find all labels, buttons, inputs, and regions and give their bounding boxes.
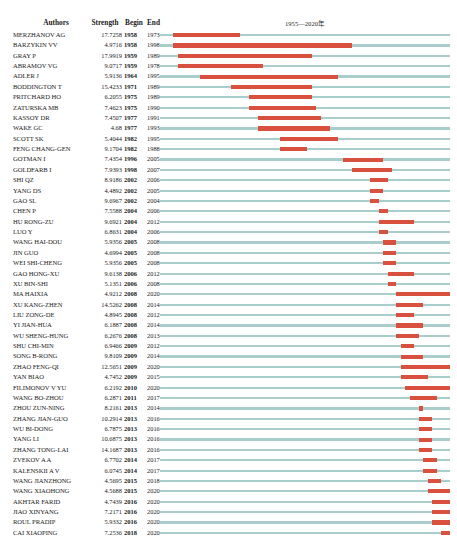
- burst-bar: [441, 531, 450, 535]
- cell-author: PRITCHARD HO: [13, 92, 89, 102]
- timeline-track: [160, 511, 450, 513]
- table-row: KALENSKII A V6.074520142017: [0, 466, 457, 476]
- cell-strength: 9.6921: [86, 217, 122, 227]
- cell-begin: 2016: [124, 517, 145, 527]
- timeline-track: [160, 438, 450, 440]
- cell-begin: 2002: [124, 175, 145, 185]
- cell-strength: 5.9356: [86, 237, 122, 247]
- table-row: WANG BO-ZHOU6.287120112017: [0, 393, 457, 403]
- cell-author: WANG XIAOHONG: [13, 486, 89, 496]
- burst-bar: [396, 323, 423, 327]
- timeline-track: [160, 532, 450, 534]
- table-header: Authors Strength Begin End 1955—2020年: [0, 18, 457, 30]
- cell-strength: 4.7452: [86, 372, 122, 382]
- timeline-track: [160, 190, 450, 192]
- burst-bar: [383, 240, 396, 244]
- cell-strength: 14.1687: [86, 445, 122, 455]
- burst-bar: [423, 469, 436, 473]
- burst-bar: [258, 126, 329, 130]
- cell-author: BARZYKIN VV: [13, 40, 89, 50]
- timeline-track: [160, 480, 450, 482]
- cell-begin: 2002: [124, 186, 145, 196]
- cell-begin: 2008: [124, 320, 145, 330]
- table-row: MERZHANOV AG17.725819581973: [0, 30, 457, 40]
- cell-strength: 14.5262: [86, 300, 122, 310]
- burst-bar: [419, 406, 423, 410]
- burst-bar: [178, 64, 263, 68]
- cell-begin: 2004: [124, 217, 145, 227]
- timeline-track: [160, 449, 450, 451]
- cell-begin: 2015: [124, 476, 145, 486]
- burst-bar: [370, 189, 383, 193]
- table-row: AKHTAR FARID4.743920162020: [0, 497, 457, 507]
- cell-strength: 8.9186: [86, 175, 122, 185]
- timeline-track: [160, 200, 450, 202]
- timeline-track: [160, 169, 450, 171]
- table-row: SONG B-RONG9.810920092014: [0, 351, 457, 361]
- burst-bar: [370, 199, 379, 203]
- timeline-track: [160, 262, 450, 264]
- cell-begin: 2015: [124, 486, 145, 496]
- timeline-track: [160, 283, 450, 285]
- timeline-track: [160, 501, 450, 503]
- cell-author: YAN BIAO: [13, 372, 89, 382]
- burst-bar: [410, 396, 437, 400]
- cell-strength: 9.6138: [86, 269, 122, 279]
- cell-strength: 5.9136: [86, 71, 122, 81]
- table-row: WANG XIAOHONG4.568820152020: [0, 486, 457, 496]
- cell-strength: 6.2871: [86, 393, 122, 403]
- table-row: MA HAIXIA4.921220082020: [0, 289, 457, 299]
- cell-begin: 2014: [124, 466, 145, 476]
- cell-author: ZHAO FENG-QI: [13, 362, 89, 372]
- table-row: CHEN P7.558820042006: [0, 206, 457, 216]
- cell-author: CAI XIAOPING: [13, 528, 89, 538]
- cell-author: ABRAMOV VG: [13, 61, 89, 71]
- cell-begin: 2013: [124, 414, 145, 424]
- timeline-track: [160, 252, 450, 254]
- burst-bar: [432, 520, 450, 524]
- cell-strength: 7.4354: [86, 154, 122, 164]
- burst-bar: [388, 282, 397, 286]
- cell-author: WEI SHI-CHENG: [13, 258, 89, 268]
- table-row: XU KANG-ZHEN14.526220082014: [0, 300, 457, 310]
- cell-author: ZHOU ZUN-NING: [13, 403, 89, 413]
- cell-strength: 4.9716: [86, 40, 122, 50]
- burst-bar: [419, 427, 432, 431]
- cell-strength: 4.5695: [86, 476, 122, 486]
- cell-author: WANG JIANZHONG: [13, 476, 89, 486]
- burst-bar: [405, 386, 450, 390]
- table-row: YAN BIAO4.745220092015: [0, 372, 457, 382]
- timeline-track: [160, 418, 450, 420]
- table-row: GRAY P17.991919591989: [0, 51, 457, 61]
- cell-strength: 5.4044: [86, 134, 122, 144]
- timeline-track: [160, 470, 450, 472]
- cell-strength: 6.2192: [86, 383, 122, 393]
- cell-author: GOTMAN I: [13, 154, 89, 164]
- cell-begin: 1982: [124, 144, 145, 154]
- table-row: GAO SL9.696720022004: [0, 196, 457, 206]
- table-row: ZATURSKA MB7.462319751990: [0, 103, 457, 113]
- table-row: ZHOU ZUN-NING8.216120132014: [0, 403, 457, 413]
- cell-author: ZATURSKA MB: [13, 103, 89, 113]
- cell-author: YI JIAN-HUA: [13, 320, 89, 330]
- burst-bar: [428, 489, 450, 493]
- burst-bar: [401, 365, 450, 369]
- table-row: YI JIAN-HUA6.188720082014: [0, 320, 457, 330]
- cell-begin: 2013: [124, 424, 145, 434]
- cell-begin: 1975: [124, 103, 145, 113]
- cell-strength: 6.7875: [86, 424, 122, 434]
- burst-bar: [396, 303, 423, 307]
- table-row: SCOTT SK5.404419821995: [0, 134, 457, 144]
- cell-author: WANG HAI-DOU: [13, 237, 89, 247]
- table-row: LIU ZONG-DE4.894520082012: [0, 310, 457, 320]
- cell-begin: 2008: [124, 331, 145, 341]
- cell-begin: 2009: [124, 351, 145, 361]
- cell-strength: 4.68: [86, 123, 122, 133]
- burst-bar: [352, 168, 392, 172]
- cell-strength: 12.5651: [86, 362, 122, 372]
- burst-bar: [432, 510, 450, 514]
- table-row: WANG HAI-DOU5.935620052008: [0, 237, 457, 247]
- cell-begin: 2008: [124, 310, 145, 320]
- cell-begin: 1964: [124, 71, 145, 81]
- table-row: GOLDFARB I7.939319982007: [0, 165, 457, 175]
